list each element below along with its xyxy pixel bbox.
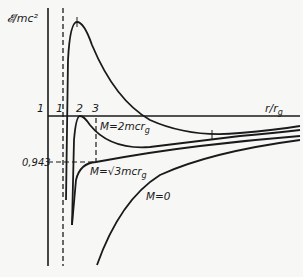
- curve-m-0: [97, 140, 300, 265]
- curve-m-sqrt3: [72, 136, 300, 225]
- y-tick-1: 1: [37, 102, 44, 115]
- effective-potential-diagram: 𝓔/mc² r/rg 1 1 2 3 0,943 M=2mcrg M=√3mcr…: [0, 0, 303, 277]
- x-tick-2: 2: [76, 102, 83, 115]
- label-m-2mcrg: M=2mcrg: [100, 120, 150, 135]
- x-axis-label: r/rg: [265, 102, 283, 117]
- label-m-sqrt3: M=√3mcrg: [90, 165, 147, 180]
- y-value-0943: 0,943: [22, 157, 51, 168]
- y-axis-label: 𝓔/mc²: [7, 12, 38, 25]
- x-tick-1: 1: [56, 102, 63, 115]
- label-m-0: M=0: [146, 190, 171, 202]
- x-tick-3: 3: [92, 102, 99, 115]
